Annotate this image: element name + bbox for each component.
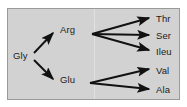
pathway-arrows-svg bbox=[8, 9, 180, 100]
node-label-ala: Ala bbox=[156, 85, 170, 95]
node-label-thr: Thr bbox=[156, 14, 171, 24]
node-label-ser: Ser bbox=[156, 31, 171, 41]
edge-glu-to-ala bbox=[90, 83, 149, 89]
edge-glu-to-val bbox=[90, 69, 149, 83]
node-label-ileu: Ileu bbox=[156, 47, 172, 57]
edge-gly-to-glu bbox=[34, 60, 53, 79]
node-label-glu: Glu bbox=[60, 75, 75, 85]
figure-root: Gly Arg Glu Thr Ser Ileu Val Ala bbox=[0, 0, 187, 107]
edge-arg-to-ser bbox=[92, 34, 149, 35]
node-label-gly: Gly bbox=[13, 51, 28, 61]
diagram-panel: Gly Arg Glu Thr Ser Ileu Val Ala bbox=[7, 8, 180, 100]
edge-gly-to-arg bbox=[34, 33, 53, 53]
node-label-arg: Arg bbox=[60, 25, 75, 35]
node-label-val: Val bbox=[156, 66, 169, 76]
edge-arg-to-thr bbox=[92, 18, 149, 34]
edge-arg-to-ileu bbox=[92, 34, 149, 50]
